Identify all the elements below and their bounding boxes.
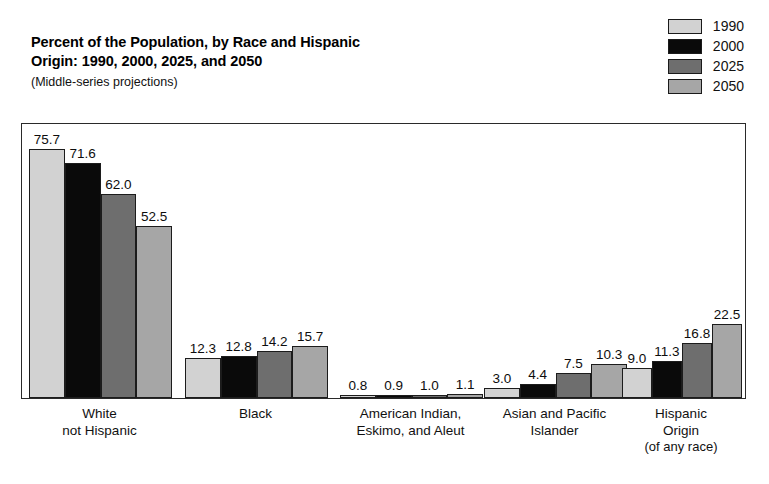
legend-item-2025[interactable]: 2025: [668, 58, 744, 75]
bar-value-label: 12.3: [190, 342, 216, 356]
bar-2025[interactable]: 16.8: [682, 124, 712, 398]
bar-1990[interactable]: 75.7: [29, 124, 65, 398]
bar-group: 12.312.814.215.7: [185, 124, 328, 398]
bar-2000[interactable]: 4.4: [520, 124, 556, 398]
bar-rect-2050[interactable]: [712, 324, 742, 398]
bar-1990[interactable]: 9.0: [622, 124, 652, 398]
bar-2025[interactable]: 7.5: [556, 124, 592, 398]
bar-rect-2050[interactable]: [136, 226, 172, 399]
category-label-line: not Hispanic: [0, 423, 201, 440]
bar-value-label: 9.0: [628, 352, 647, 366]
legend-item-2000[interactable]: 2000: [668, 38, 744, 55]
chart-category-axis: Whitenot HispanicBlackAmerican Indian,Es…: [21, 406, 746, 476]
page-title-line-1: Percent of the Population, by Race and H…: [31, 33, 451, 52]
bar-2025[interactable]: 62.0: [101, 124, 137, 398]
bar-rect-2025[interactable]: [101, 194, 137, 398]
legend-swatch-1990: [668, 19, 702, 34]
bar-rect-2025[interactable]: [682, 343, 712, 398]
legend-label-2050: 2050: [713, 79, 744, 94]
bar-2000[interactable]: 11.3: [652, 124, 682, 398]
bar-group: 9.011.316.822.5: [622, 124, 742, 398]
bar-group-bars: 12.312.814.215.7: [185, 124, 328, 398]
legend-item-1990[interactable]: 1990: [668, 18, 744, 35]
bar-value-label: 62.0: [105, 178, 131, 192]
legend-swatch-2000: [668, 39, 702, 54]
bar-group: 3.04.47.510.3: [484, 124, 627, 398]
bar-rect-1990[interactable]: [622, 368, 652, 398]
bar-value-label: 1.0: [420, 379, 439, 393]
bar-value-label: 11.3: [654, 345, 679, 359]
bar-rect-2025[interactable]: [412, 395, 448, 398]
category-label-line: Hispanic: [591, 406, 769, 423]
bar-value-label: 0.9: [384, 379, 403, 393]
chart-title-block: Percent of the Population, by Race and H…: [31, 33, 451, 91]
bar-rect-2000[interactable]: [652, 361, 682, 398]
category-label: HispanicOrigin(of any race): [591, 406, 769, 456]
bar-rect-1990[interactable]: [340, 395, 376, 398]
bar-value-label: 22.5: [714, 308, 740, 322]
bar-rect-2000[interactable]: [520, 384, 556, 398]
bar-2000[interactable]: 0.9: [376, 124, 412, 398]
bar-group-bars: 3.04.47.510.3: [484, 124, 627, 398]
bar-1990[interactable]: 12.3: [185, 124, 221, 398]
bar-value-label: 16.8: [684, 327, 710, 341]
bar-value-label: 1.1: [456, 378, 475, 392]
legend-swatch-2050: [668, 79, 702, 94]
legend-label-2000: 2000: [713, 39, 744, 54]
bar-group-bars: 75.771.662.052.5: [29, 124, 172, 398]
legend-swatch-2025: [668, 59, 702, 74]
bar-value-label: 75.7: [34, 133, 60, 147]
bar-rect-1990[interactable]: [484, 388, 520, 398]
bar-2050[interactable]: 1.1: [447, 124, 483, 398]
bar-value-label: 10.3: [596, 348, 622, 362]
bar-rect-2000[interactable]: [376, 395, 412, 398]
bar-1990[interactable]: 0.8: [340, 124, 376, 398]
bar-group: 0.80.91.01.1: [340, 124, 483, 398]
bar-value-label: 52.5: [141, 210, 167, 224]
bar-rect-2000[interactable]: [221, 356, 257, 398]
bar-value-label: 7.5: [564, 357, 583, 371]
bar-group: 75.771.662.052.5: [29, 124, 172, 398]
bar-rect-1990[interactable]: [29, 149, 65, 398]
bar-value-label: 3.0: [492, 372, 511, 386]
legend-label-2025: 2025: [713, 59, 744, 74]
category-label-line: (of any race): [591, 439, 769, 456]
bar-rect-2050[interactable]: [447, 394, 483, 398]
bar-rect-2025[interactable]: [257, 351, 293, 398]
bar-value-label: 12.8: [225, 340, 251, 354]
bar-group-bars: 0.80.91.01.1: [340, 124, 483, 398]
bar-value-label: 4.4: [528, 368, 547, 382]
chart-subtitle: (Middle-series projections): [31, 73, 451, 91]
bar-2025[interactable]: 1.0: [412, 124, 448, 398]
bar-2025[interactable]: 14.2: [257, 124, 293, 398]
legend-item-2050[interactable]: 2050: [668, 78, 744, 95]
bar-value-label: 15.7: [297, 330, 323, 344]
bar-2000[interactable]: 71.6: [65, 124, 101, 398]
bar-rect-1990[interactable]: [185, 358, 221, 398]
bar-value-label: 71.6: [69, 147, 95, 161]
page-title-line-2: Origin: 1990, 2000, 2025, and 2050: [31, 52, 451, 71]
page-footer-ghost-text: [28, 474, 748, 484]
category-label-line: Origin: [591, 423, 769, 440]
chart-plot-area: 75.771.662.052.512.312.814.215.70.80.91.…: [22, 124, 745, 398]
bar-2050[interactable]: 22.5: [712, 124, 742, 398]
bar-rect-2000[interactable]: [65, 163, 101, 398]
chart-plot-frame: 75.771.662.052.512.312.814.215.70.80.91.…: [21, 123, 746, 399]
bar-2000[interactable]: 12.8: [221, 124, 257, 398]
bar-value-label: 14.2: [261, 335, 287, 349]
bar-1990[interactable]: 3.0: [484, 124, 520, 398]
bar-group-bars: 9.011.316.822.5: [622, 124, 742, 398]
bar-rect-2025[interactable]: [556, 373, 592, 398]
legend-label-1990: 1990: [713, 19, 744, 34]
bar-value-label: 0.8: [348, 379, 367, 393]
chart-legend: 1990200020252050: [668, 18, 744, 95]
bar-2050[interactable]: 52.5: [136, 124, 172, 398]
bar-2050[interactable]: 15.7: [292, 124, 328, 398]
bar-rect-2050[interactable]: [292, 346, 328, 398]
